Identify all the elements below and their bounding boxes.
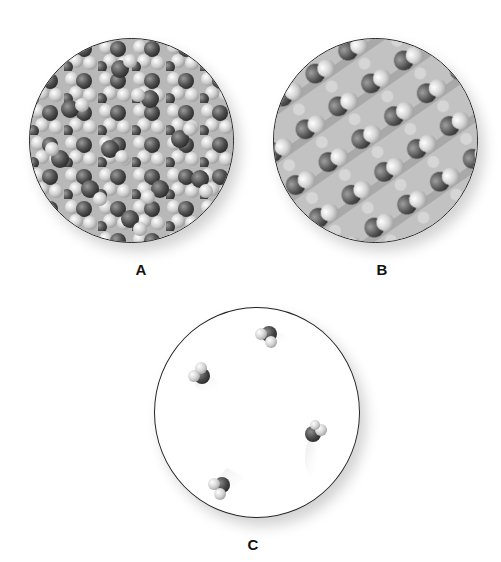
- solid-lattice-illustration: [274, 39, 478, 243]
- panel-b: [273, 38, 478, 243]
- gas-molecule-2: [188, 362, 219, 391]
- gas-molecule-1: [255, 326, 287, 348]
- solid-molecules-disc: [273, 38, 478, 243]
- panel-b-label: B: [367, 261, 397, 278]
- panel-c-label: C: [238, 536, 268, 553]
- panel-a: [29, 38, 234, 243]
- liquid-molecules-illustration: [30, 39, 234, 243]
- gas-molecules-disc: [154, 307, 360, 518]
- gas-molecule-4: [208, 468, 245, 500]
- panel-c: [154, 307, 360, 518]
- gas-molecules-illustration: [155, 308, 360, 518]
- liquid-molecules-disc: [29, 38, 234, 243]
- gas-molecule-3: [305, 420, 327, 476]
- panel-a-label: A: [126, 261, 156, 278]
